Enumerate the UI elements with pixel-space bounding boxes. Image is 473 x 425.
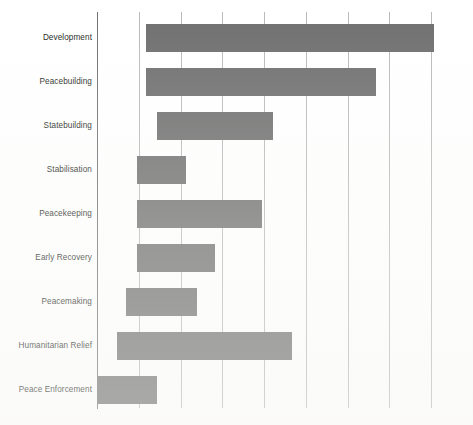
bar-development[interactable] [146, 24, 434, 52]
bar-early-recovery[interactable] [137, 244, 215, 272]
bar-peacebuilding[interactable] [146, 68, 376, 96]
category-label-early-recovery: Early Recovery [0, 253, 92, 263]
bar-peace-enforcement[interactable] [97, 376, 157, 404]
gantt-chart: DevelopmentPeacebuildingStatebuildingSta… [0, 0, 473, 425]
category-label-peacemaking: Peacemaking [0, 297, 92, 307]
bar-humanitarian-relief[interactable] [117, 332, 292, 360]
category-label-humanitarian-relief: Humanitarian Relief [0, 341, 92, 351]
bar-statebuilding[interactable] [157, 112, 273, 140]
gridline-8 [431, 12, 432, 408]
bar-peacemaking[interactable] [126, 288, 197, 316]
category-label-peace-enforcement: Peace Enforcement [0, 385, 92, 395]
category-label-peacekeeping: Peacekeeping [0, 209, 92, 219]
value-axis-line [97, 12, 98, 409]
category-axis: DevelopmentPeacebuildingStatebuildingSta… [0, 0, 92, 425]
category-label-development: Development [0, 33, 92, 43]
category-label-statebuilding: Statebuilding [0, 121, 92, 131]
plot-area [97, 12, 473, 408]
gridline-7 [389, 12, 390, 408]
bar-peacekeeping[interactable] [137, 200, 262, 228]
category-label-peacebuilding: Peacebuilding [0, 77, 92, 87]
category-label-stabilisation: Stabilisation [0, 165, 92, 175]
bar-stabilisation[interactable] [137, 156, 186, 184]
